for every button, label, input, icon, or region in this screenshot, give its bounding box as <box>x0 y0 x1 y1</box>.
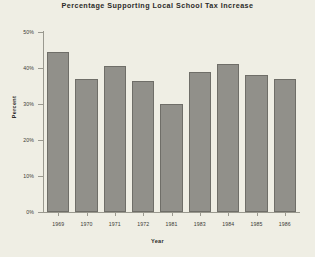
x-axis-tick-label: 1970 <box>72 221 102 227</box>
x-axis-tick-label: 1969 <box>43 221 73 227</box>
plot-area <box>44 32 299 212</box>
x-axis-tick <box>143 212 144 216</box>
bar-1981 <box>160 104 183 212</box>
x-axis-tick <box>87 212 88 216</box>
x-axis-tick <box>285 212 286 216</box>
x-axis-tick-label: 1985 <box>242 221 272 227</box>
y-axis-title: Percent <box>11 87 17 127</box>
x-axis-title: Year <box>0 238 315 244</box>
x-axis-tick-label: 1984 <box>213 221 243 227</box>
y-axis-tick-label: 50% <box>12 29 34 35</box>
x-axis-tick-label: 1986 <box>270 221 300 227</box>
bar-1983 <box>189 72 212 212</box>
bar-1986 <box>274 79 297 212</box>
bar-1969 <box>47 52 70 212</box>
bar-1985 <box>245 75 268 212</box>
y-axis-tick-label: 20% <box>12 137 34 143</box>
bar-1984 <box>217 64 240 212</box>
x-axis-tick-label: 1971 <box>100 221 130 227</box>
chart-title: Percentage Supporting Local School Tax I… <box>0 1 315 10</box>
y-axis-tick-label: 0% <box>12 209 34 215</box>
x-axis-tick <box>58 212 59 216</box>
x-axis-tick <box>257 212 258 216</box>
y-axis-tick <box>38 212 44 213</box>
y-axis-tick-label: 30% <box>12 101 34 107</box>
x-axis-tick <box>228 212 229 216</box>
bar-1972 <box>132 81 155 212</box>
x-axis-tick <box>115 212 116 216</box>
bar-1971 <box>104 66 127 212</box>
bar-1970 <box>75 79 98 212</box>
y-axis-tick-label: 40% <box>12 65 34 71</box>
x-axis-tick-label: 1972 <box>128 221 158 227</box>
x-axis-tick <box>172 212 173 216</box>
y-axis-tick-label: 10% <box>12 173 34 179</box>
x-axis-tick-label: 1983 <box>185 221 215 227</box>
chart-figure: Percentage Supporting Local School Tax I… <box>0 0 315 257</box>
x-axis-tick-label: 1981 <box>157 221 187 227</box>
x-axis-tick <box>200 212 201 216</box>
